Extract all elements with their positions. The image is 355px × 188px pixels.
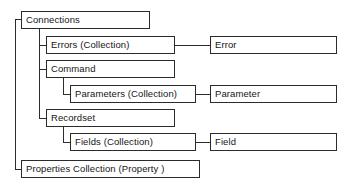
connector-parameters-to-parameter bbox=[196, 94, 211, 95]
node-properties-collection-label: Properties Collection (Property ) bbox=[26, 164, 164, 174]
connector-level2-vertical bbox=[39, 29, 40, 119]
node-parameter-label: Parameter bbox=[215, 89, 260, 99]
node-fields-collection[interactable]: Fields (Collection) bbox=[70, 133, 196, 151]
node-field-label: Field bbox=[215, 137, 236, 147]
node-connections-label: Connections bbox=[26, 15, 80, 25]
node-fields-collection-label: Fields (Collection) bbox=[75, 137, 153, 147]
node-command-label: Command bbox=[51, 64, 96, 73]
node-parameters-collection[interactable]: Parameters (Collection) bbox=[70, 85, 196, 103]
node-field[interactable]: Field bbox=[210, 133, 337, 151]
node-command[interactable]: Command bbox=[46, 60, 175, 78]
object-model-diagram: Connections Errors (Collection) Error Co… bbox=[0, 0, 355, 188]
node-errors-collection-label: Errors (Collection) bbox=[51, 40, 129, 50]
node-errors-collection[interactable]: Errors (Collection) bbox=[46, 36, 175, 54]
node-recordset-label: Recordset bbox=[51, 113, 95, 123]
connector-command-vertical bbox=[63, 78, 64, 95]
node-error[interactable]: Error bbox=[210, 36, 337, 54]
node-connections[interactable]: Connections bbox=[21, 11, 150, 29]
connector-fields-to-field bbox=[196, 142, 211, 143]
connector-recordset-vertical bbox=[63, 127, 64, 143]
node-parameter[interactable]: Parameter bbox=[210, 85, 337, 103]
node-recordset[interactable]: Recordset bbox=[46, 109, 175, 127]
connector-errors-to-error bbox=[175, 45, 211, 46]
node-parameters-collection-label: Parameters (Collection) bbox=[75, 89, 177, 99]
node-error-label: Error bbox=[215, 40, 237, 50]
connector-trunk-vertical bbox=[15, 19, 16, 170]
node-properties-collection[interactable]: Properties Collection (Property ) bbox=[21, 160, 200, 178]
